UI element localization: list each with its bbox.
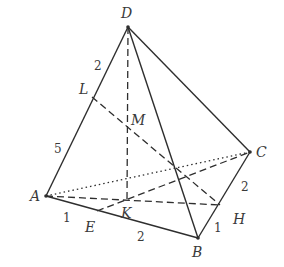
vertex-points — [44, 25, 252, 240]
label-b: B — [191, 244, 202, 260]
label-l: L — [78, 81, 88, 97]
edge-AC — [46, 152, 250, 196]
edge-DA — [46, 27, 128, 196]
length-label-la: 5 — [54, 142, 62, 156]
edge-DK — [127, 27, 128, 201]
label-k: K — [120, 205, 133, 221]
label-m: M — [130, 112, 146, 128]
edge-DC — [128, 27, 250, 152]
label-d: D — [120, 5, 132, 21]
label-h: H — [232, 211, 246, 227]
length-label-ae: 1 — [63, 211, 71, 225]
length-label-dl: 2 — [94, 59, 102, 73]
label-a: A — [28, 188, 40, 204]
label-e: E — [84, 219, 95, 235]
length-label-hb: 1 — [214, 221, 222, 235]
length-label-ch: 2 — [241, 180, 249, 194]
vertex-b-dot — [196, 236, 200, 240]
edge-DB — [128, 27, 198, 238]
edges — [46, 27, 250, 238]
label-c: C — [256, 144, 267, 160]
length-label-eb: 2 — [137, 230, 145, 244]
vertex-d-dot — [126, 25, 130, 29]
vertex-a-dot — [44, 194, 48, 198]
tetrahedron-diagram: DABCLMKEH 251221 — [0, 0, 284, 267]
vertex-c-dot — [248, 150, 252, 154]
